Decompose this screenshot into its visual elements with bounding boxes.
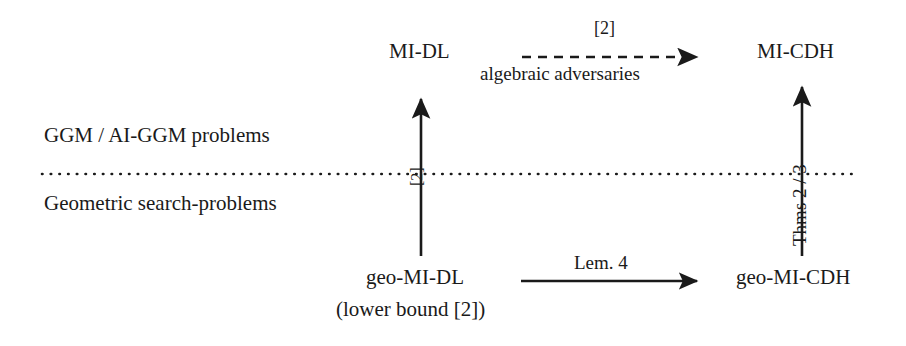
lem4-reduction-label: Lem. 4 — [574, 253, 628, 272]
geo-mi-dl-lower-bound-note: (lower bound [2]) — [336, 299, 485, 320]
algebraic-reduction-caption: algebraic adversaries — [480, 64, 640, 83]
node-geo-mi-cdh: geo-MI-CDH — [736, 267, 850, 288]
figure-canvas: MI-DL MI-CDH geo-MI-DL geo-MI-CDH (lower… — [0, 0, 906, 346]
node-geo-mi-dl: geo-MI-DL — [366, 267, 464, 288]
algebraic-reduction-citation: [2] — [594, 19, 615, 37]
node-mi-cdh: MI-CDH — [757, 41, 834, 62]
geo-mi-dl-to-mi-dl-citation: [2] — [409, 167, 425, 186]
node-mi-dl: MI-DL — [389, 41, 450, 62]
geo-mi-cdh-to-mi-cdh-theorems-label: Thms 2 / 3 — [790, 164, 809, 246]
region-label-geometric: Geometric search-problems — [44, 193, 277, 214]
region-label-ggm: GGM / AI-GGM problems — [44, 125, 270, 146]
